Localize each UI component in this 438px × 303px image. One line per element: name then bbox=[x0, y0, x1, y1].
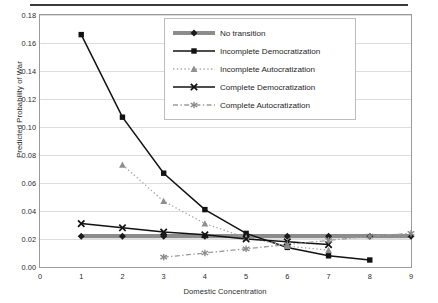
data-point-square bbox=[191, 48, 196, 53]
legend-key-asterisk-icon bbox=[171, 99, 217, 111]
data-point-square bbox=[367, 257, 372, 262]
top-divider-rule bbox=[30, 4, 408, 6]
data-point-triangle bbox=[119, 161, 126, 167]
y-axis-tick-label: 0.10 bbox=[22, 123, 40, 132]
x-axis-tick-label: 4 bbox=[203, 267, 207, 281]
legend-key-triangle-icon bbox=[171, 63, 217, 75]
data-point-diamond bbox=[119, 233, 126, 240]
legend-item[interactable]: Incomplete Autocratization bbox=[171, 60, 349, 78]
data-point-triangle bbox=[201, 220, 208, 226]
data-point-diamond bbox=[191, 30, 198, 37]
data-point-asterisk bbox=[202, 250, 209, 257]
x-axis-tick-label: 3 bbox=[162, 267, 166, 281]
legend-label: Complete Autocratization bbox=[220, 101, 310, 110]
data-point-square bbox=[202, 207, 207, 212]
y-axis-tick-label: 0.04 bbox=[22, 207, 40, 216]
data-point-triangle bbox=[160, 198, 167, 204]
legend-label: Complete Democratization bbox=[220, 83, 315, 92]
legend-label: Incomplete Autocratization bbox=[220, 65, 315, 74]
data-point-square bbox=[161, 171, 166, 176]
y-axis-tick-label: 0.14 bbox=[22, 67, 40, 76]
legend-item[interactable]: Complete Autocratization bbox=[171, 96, 349, 114]
legend-label: Incomplete Democratization bbox=[220, 47, 320, 56]
legend-label: No transition bbox=[220, 29, 265, 38]
x-axis-tick-label: 2 bbox=[120, 267, 124, 281]
data-point-square bbox=[120, 115, 125, 120]
x-axis-tick-label: 5 bbox=[244, 267, 248, 281]
x-axis-tick-label: 0 bbox=[38, 267, 42, 281]
x-axis-tick-label: 7 bbox=[326, 267, 330, 281]
y-axis-tick-label: 0.08 bbox=[22, 151, 40, 160]
y-axis-tick-label: 0.12 bbox=[22, 95, 40, 104]
legend-item[interactable]: Complete Democratization bbox=[171, 78, 349, 96]
legend-key-cross-icon bbox=[171, 81, 217, 93]
y-axis-tick-label: 0.06 bbox=[22, 179, 40, 188]
x-axis-tick-label: 9 bbox=[409, 267, 413, 281]
data-point-square bbox=[326, 253, 331, 258]
y-axis-tick-label: 0.18 bbox=[22, 11, 40, 20]
x-axis-title: Domestic Concentration bbox=[38, 287, 412, 296]
chart-figure: Predicted Probability of War Domestic Co… bbox=[0, 0, 438, 303]
x-axis-tick-label: 1 bbox=[79, 267, 83, 281]
data-point-square bbox=[79, 32, 84, 37]
x-axis-tick-label: 6 bbox=[285, 267, 289, 281]
x-axis-tick-label: 8 bbox=[368, 267, 372, 281]
chart-legend: No transitionIncomplete DemocratizationI… bbox=[164, 18, 356, 120]
legend-item[interactable]: No transition bbox=[171, 24, 349, 42]
legend-key-diamond-icon bbox=[171, 27, 217, 39]
legend-key-square-icon bbox=[171, 45, 217, 57]
legend-item[interactable]: Incomplete Democratization bbox=[171, 42, 349, 60]
y-axis-tick-label: 0.02 bbox=[22, 235, 40, 244]
data-point-diamond bbox=[78, 233, 85, 240]
y-axis-tick-label: 0.16 bbox=[22, 39, 40, 48]
